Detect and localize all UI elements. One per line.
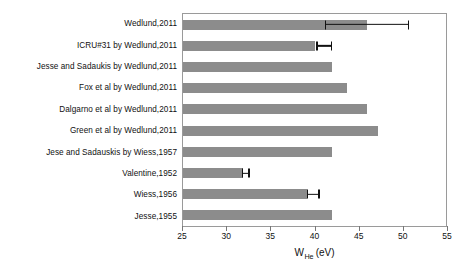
x-axis-title-subscript: He xyxy=(304,252,316,261)
bar xyxy=(183,189,307,199)
table-row xyxy=(183,35,446,56)
error-bar xyxy=(242,169,250,178)
category-label: Jese and Sadauskis by Wiess,1957 xyxy=(46,148,177,157)
bar xyxy=(183,41,315,51)
bar xyxy=(183,83,347,93)
error-bar-cap-right xyxy=(318,190,319,199)
bar xyxy=(183,168,243,178)
category-label: ICRU#31 by Wedlund,2011 xyxy=(77,41,177,50)
bar xyxy=(183,147,332,157)
plot-area xyxy=(182,13,447,227)
error-bar-cap-left xyxy=(242,169,243,178)
category-label: Fox et al by Wedlund,2011 xyxy=(79,83,177,92)
table-row xyxy=(183,120,446,141)
error-bar-cap-left xyxy=(316,41,317,50)
bar xyxy=(183,62,332,72)
x-tick-label: 45 xyxy=(354,231,363,241)
table-row xyxy=(183,162,446,183)
category-label: Wedlund,2011 xyxy=(124,19,177,28)
x-axis-tick-labels: 25303540455055 xyxy=(182,231,447,243)
table-row xyxy=(183,184,446,205)
category-label: Jesse and Sadaukis by Wedlund,2011 xyxy=(37,62,177,71)
table-row xyxy=(183,141,446,162)
chart-figure: Wedlund,2011ICRU#31 by Wedlund,2011Jesse… xyxy=(0,0,467,279)
table-row xyxy=(183,14,446,35)
error-bar-line xyxy=(325,24,409,25)
error-bar-cap-left xyxy=(307,190,308,199)
x-tick-label: 25 xyxy=(177,231,186,241)
category-label: Dalgarno et al by Wedlund,2011 xyxy=(59,105,177,114)
x-axis-title-main: W xyxy=(294,247,303,258)
error-bar-cap-right xyxy=(331,41,332,50)
x-axis-title-unit: (eV) xyxy=(316,247,335,258)
table-row xyxy=(183,56,446,77)
category-label: Green et al by Wedlund,2011 xyxy=(70,126,177,135)
bar xyxy=(183,126,378,136)
table-row xyxy=(183,78,446,99)
table-row xyxy=(183,99,446,120)
x-axis-title: WHe(eV) xyxy=(182,247,447,261)
bar xyxy=(183,104,367,114)
category-label: Valentine,1952 xyxy=(122,169,177,178)
category-label: Jesse,1955 xyxy=(135,212,177,221)
category-axis-labels: Wedlund,2011ICRU#31 by Wedlund,2011Jesse… xyxy=(0,13,180,227)
table-row xyxy=(183,205,446,226)
error-bar-cap-left xyxy=(325,20,326,29)
x-tick-label: 50 xyxy=(398,231,407,241)
error-bar-cap-right xyxy=(248,169,249,178)
error-bar xyxy=(307,190,320,199)
x-tick-label: 30 xyxy=(221,231,230,241)
x-tick-label: 40 xyxy=(310,231,319,241)
x-tick-label: 35 xyxy=(266,231,275,241)
bar xyxy=(183,210,332,220)
bar-rows xyxy=(183,14,446,226)
error-bar xyxy=(316,41,332,50)
x-tick-label: 55 xyxy=(442,231,451,241)
category-label: Wiess,1956 xyxy=(134,190,177,199)
error-bar-cap-right xyxy=(408,20,409,29)
error-bar xyxy=(325,20,409,29)
